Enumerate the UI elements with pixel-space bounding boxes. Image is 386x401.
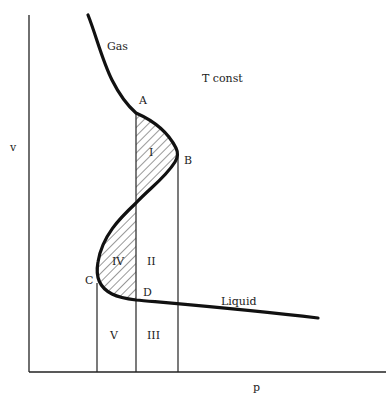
region-iii-label: III bbox=[147, 330, 160, 341]
y-axis-label: v bbox=[10, 142, 16, 153]
region-i-label: I bbox=[149, 147, 153, 158]
region-v-label: V bbox=[110, 330, 118, 341]
diagram-graphics bbox=[0, 0, 386, 401]
point-a-label: A bbox=[139, 95, 147, 106]
liquid-label: Liquid bbox=[221, 296, 257, 307]
temperature-const-label: T const bbox=[202, 73, 243, 84]
region-ii-label: II bbox=[147, 256, 156, 267]
region-iv-label: IV bbox=[112, 256, 124, 267]
point-c-label: C bbox=[85, 275, 93, 286]
point-d-label: D bbox=[143, 287, 152, 298]
x-axis-label: p bbox=[253, 382, 260, 393]
point-b-label: B bbox=[184, 155, 192, 166]
gas-label: Gas bbox=[107, 41, 128, 52]
pv-diagram: v p Gas T const Liquid A B C D I II III … bbox=[0, 0, 386, 401]
